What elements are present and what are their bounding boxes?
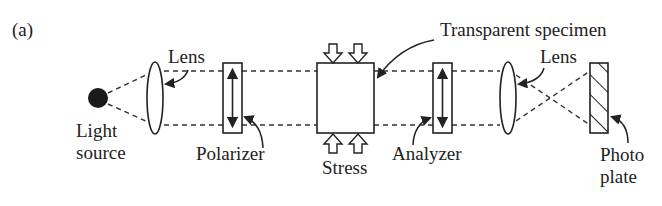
stress-arrows-top (324, 44, 367, 63)
panel-label: (a) (12, 19, 33, 41)
lens-2-leader-arrow (519, 68, 544, 84)
light-source-dot-icon (88, 88, 108, 108)
stress-arrow-down-icon (349, 44, 367, 63)
specimen-label: Transparent specimen (440, 19, 607, 40)
beam-cross-1 (516, 75, 590, 125)
stress-arrows-bottom (324, 134, 367, 153)
lens-1-leader-arrow (166, 70, 188, 84)
polarizer-label: Polarizer (196, 143, 265, 164)
lens-2-icon (500, 62, 516, 134)
lens-1-icon (147, 62, 163, 134)
photo-plate-label-line2: plate (600, 166, 637, 187)
analyzer-leader-arrow (413, 118, 430, 145)
beam-cross-2 (516, 71, 590, 121)
photo-plate-hatched-icon (590, 63, 608, 133)
light-source-label-line2: source (76, 142, 126, 163)
stress-arrow-up-icon (349, 134, 367, 153)
light-source (88, 88, 108, 108)
beam-diverge-top (108, 74, 148, 93)
photo-plate-leader-arrow (612, 117, 628, 143)
photo-plate (590, 63, 608, 133)
polarizer (223, 63, 242, 133)
lens-2-label: Lens (540, 46, 577, 67)
lens-1-label: Lens (168, 46, 205, 67)
stress-arrow-down-icon (324, 44, 342, 63)
stress-label: Stress (322, 157, 367, 178)
stress-arrow-up-icon (324, 134, 342, 153)
photo-plate-label-line1: Photo (600, 144, 644, 165)
analyzer (433, 63, 452, 133)
transparent-specimen (317, 63, 374, 133)
light-source-label-line1: Light (76, 120, 118, 141)
photoelasticity-diagram: (a) Light source Lens Polarizer Transpar… (0, 0, 662, 206)
analyzer-label: Analyzer (392, 143, 462, 164)
